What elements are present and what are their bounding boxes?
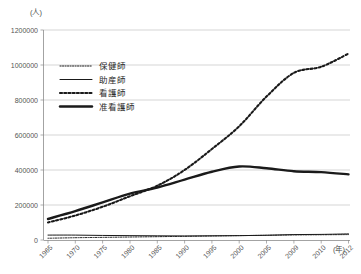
- x-tick-label: 1975: [92, 244, 108, 260]
- y-axis-unit-label: (人): [30, 8, 42, 17]
- x-tick-label: 1965: [38, 244, 54, 260]
- legend-item-label: 看護師: [99, 88, 126, 98]
- x-tick-label: 1985: [147, 244, 163, 260]
- y-tick-label: 200000: [15, 202, 38, 209]
- line-chart: (人) (年) 02000004000006000008000001000000…: [0, 0, 361, 274]
- x-tick-label: 2009: [284, 244, 300, 260]
- y-tick-label: 800000: [15, 97, 38, 104]
- series-line: [48, 234, 349, 236]
- x-tick-label: 2010: [311, 244, 327, 260]
- x-axis-tick-labels: 1965197019751980198519901995200020052009…: [38, 244, 355, 260]
- chart-legend: 保健師助産師看護師准看護師: [60, 61, 135, 112]
- x-tick-label: 2000: [229, 244, 245, 260]
- legend-item-label: 助産師: [99, 75, 126, 85]
- y-tick-label: 400000: [15, 167, 38, 174]
- x-tick-label: 1995: [202, 244, 218, 260]
- y-tick-label: 600000: [15, 132, 38, 139]
- x-tick-label: 2005: [256, 244, 272, 260]
- chart-container: (人) (年) 02000004000006000008000001000000…: [0, 0, 361, 274]
- data-series: [48, 54, 349, 239]
- x-tick-label: 1980: [120, 244, 136, 260]
- y-axis-tick-labels: 020000040000060000080000010000001200000: [11, 27, 38, 244]
- y-tick-label: 1200000: [11, 27, 38, 34]
- series-line: [48, 54, 349, 223]
- y-tick-label: 0: [34, 237, 38, 244]
- y-tick-label: 1000000: [11, 62, 38, 69]
- x-tick-label: 1970: [65, 244, 81, 260]
- legend-item-label: 保健師: [99, 61, 126, 71]
- x-tick-label: 1990: [174, 244, 190, 260]
- legend-item-label: 准看護師: [99, 102, 135, 112]
